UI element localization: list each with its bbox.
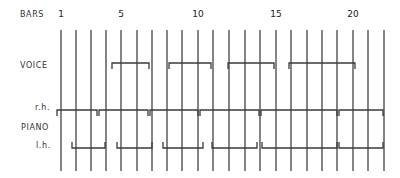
left-hand-phrase-bracket <box>339 142 383 148</box>
piano-label: PIANO <box>21 123 49 132</box>
left-hand-phrase-bracket <box>212 142 257 148</box>
bar-number: 5 <box>118 9 124 19</box>
right-hand-phrase-bracket <box>261 110 337 116</box>
left-hand-phrase-bracket <box>72 142 105 148</box>
bars-label: BARS <box>20 10 44 19</box>
voice-label: VOICE <box>20 61 48 70</box>
right-hand-phrase-bracket <box>339 110 383 116</box>
left-hand-phrase-bracket <box>163 142 203 148</box>
bar-number: 15 <box>270 9 281 19</box>
bar-number: 10 <box>192 9 203 19</box>
phrase-structure-diagram: BARS VOICE r.h. PIANO l.h. 15101520 <box>0 0 400 178</box>
left-hand-phrase-bracket <box>262 142 337 148</box>
left-hand-label: l.h. <box>36 141 51 150</box>
voice-phrase-bracket <box>169 63 211 69</box>
bar-number: 20 <box>347 9 358 19</box>
bar-number: 1 <box>58 9 64 19</box>
voice-phrase-bracket <box>228 63 274 69</box>
left-hand-phrase-bracket <box>117 142 152 148</box>
right-hand-phrase-bracket <box>150 110 198 116</box>
voice-phrase-bracket <box>112 63 149 69</box>
diagram-canvas <box>0 0 400 178</box>
right-hand-label: r.h. <box>35 103 50 112</box>
